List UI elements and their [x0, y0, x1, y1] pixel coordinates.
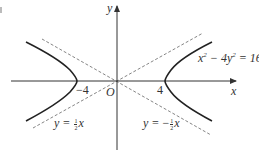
asym2-fraction: 12	[170, 118, 173, 131]
asym1-fraction: 12	[74, 118, 77, 131]
asym1-den: 2	[74, 125, 77, 131]
asym2-den: 2	[170, 125, 173, 131]
asym1-num: 1	[74, 118, 77, 125]
asym1-prefix: y =	[54, 116, 73, 130]
hyperbola-diagram	[0, 0, 259, 153]
asymptote-label-positive: y = 12x	[54, 117, 84, 131]
tick-right-vertex: 4	[157, 84, 163, 96]
x-axis-label: x	[231, 85, 236, 97]
y-axis-label: y	[107, 2, 112, 14]
asym2-var: x	[174, 116, 179, 130]
asym2-num: 1	[170, 118, 173, 125]
equation-text: x2 − 4y2 = 16	[198, 51, 259, 65]
asym1-var: x	[78, 116, 83, 130]
tick-left-vertex: −4	[76, 84, 89, 96]
asym2-sign: −	[162, 116, 169, 130]
origin-label: O	[106, 86, 115, 98]
asymptote-label-negative: y = −12x	[143, 117, 180, 131]
asym2-prefix: y =	[143, 116, 162, 130]
hyperbola-equation-label: x2 − 4y2 = 16	[198, 52, 259, 64]
